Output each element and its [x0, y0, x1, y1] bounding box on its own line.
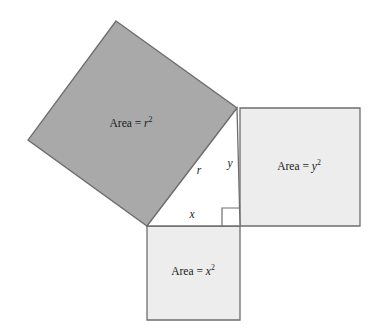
- figure-canvas: Area = r2 Area = y2 Area = x2 r y x: [0, 0, 377, 333]
- hypotenuse-area-exponent: 2: [149, 115, 153, 124]
- horizontal-leg-side-label: x: [188, 208, 195, 220]
- horizontal-leg-area-text: Area =: [171, 265, 206, 277]
- vertical-leg-area-text: Area =: [277, 160, 312, 172]
- vertical-leg-area-exponent: 2: [317, 158, 321, 167]
- horizontal-leg-square-area-label: Area = x2: [171, 263, 215, 277]
- vertical-leg-square-area-label: Area = y2: [277, 158, 321, 173]
- hypotenuse-side-label: r: [197, 164, 202, 176]
- hypotenuse-square-area-label: Area = r2: [110, 115, 153, 129]
- hypotenuse-area-text: Area =: [110, 117, 145, 129]
- vertical-leg-side-label: y: [226, 157, 233, 170]
- pythagorean-theorem-figure: Area = r2 Area = y2 Area = x2 r y x: [0, 0, 377, 333]
- horizontal-leg-area-exponent: 2: [211, 263, 215, 272]
